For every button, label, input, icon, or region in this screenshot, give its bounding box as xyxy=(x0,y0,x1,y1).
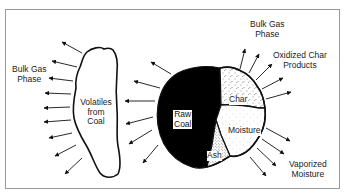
label-line: Coal xyxy=(174,120,191,130)
label-line: Moisture xyxy=(228,126,261,136)
label-line: Products xyxy=(273,61,327,71)
label-bulk-gas-top: Bulk Gas Phase xyxy=(250,20,285,39)
label-line: Coal xyxy=(74,117,118,127)
label-char: Char xyxy=(229,95,247,105)
label-raw-coal: Raw Coal xyxy=(173,110,192,129)
label-oxidized-char-products: Oxidized Char Products xyxy=(273,51,327,70)
label-line: Char xyxy=(229,95,247,105)
label-line: Phase xyxy=(250,30,285,40)
label-line: Phase xyxy=(12,75,47,85)
label-bulk-gas-left: Bulk Gas Phase xyxy=(12,65,47,84)
label-vaporized-moisture: Vaporized Moisture xyxy=(289,160,327,179)
label-line: Moisture xyxy=(289,170,327,180)
label-line: Ash xyxy=(207,151,222,161)
label-ash: Ash xyxy=(207,151,222,161)
label-moisture: Moisture xyxy=(228,126,261,136)
label-volatiles-from-coal: Volatiles from Coal xyxy=(74,98,118,127)
